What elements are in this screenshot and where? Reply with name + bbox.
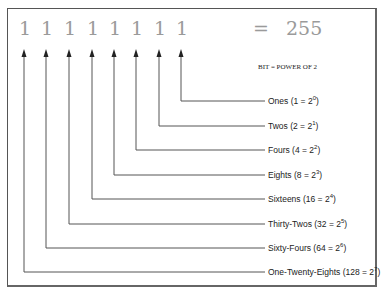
label-one-twenty-eights: One-Twenty-Eights (128 = 27) [268, 266, 380, 277]
label-ones: Ones (1 = 20) [268, 95, 319, 106]
label-fours: Fours (4 = 22) [268, 144, 320, 155]
label-twos: Twos (2 = 21) [268, 120, 318, 131]
label-sixty-fours: Sixty-Fours (64 = 26) [268, 242, 346, 253]
label-eights: Eights (8 = 23) [268, 169, 322, 180]
label-sixteens: Sixteens (16 = 24) [268, 193, 336, 204]
label-thirty-twos: Thirty-Twos (32 = 25) [268, 218, 347, 229]
